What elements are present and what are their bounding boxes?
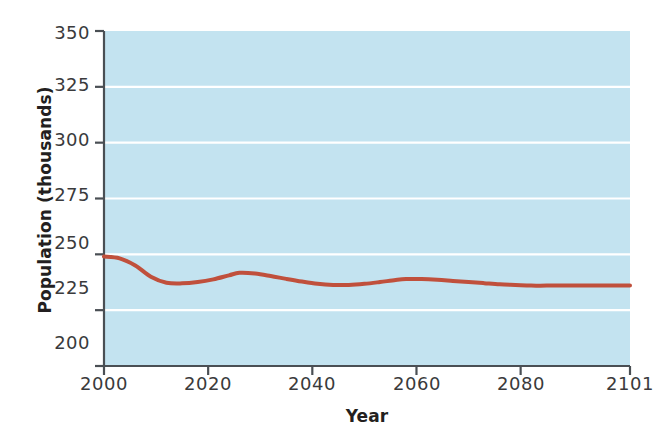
plot-area bbox=[0, 0, 667, 443]
population-projection-chart: Population (thousands) Year 350 325 300 … bbox=[0, 0, 667, 443]
